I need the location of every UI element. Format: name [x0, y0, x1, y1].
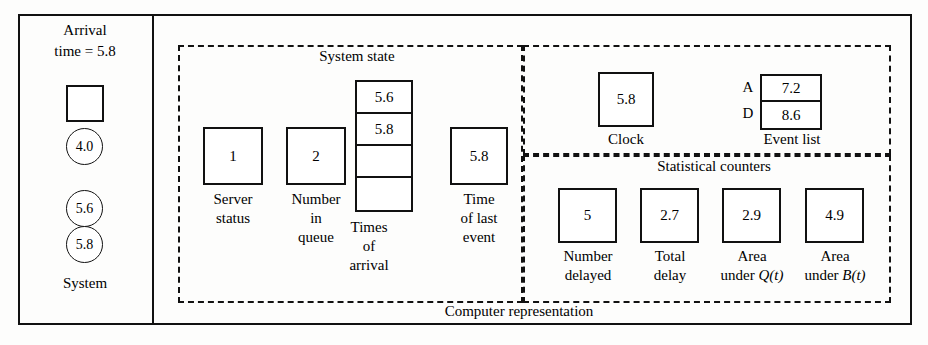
system-server-square: [66, 85, 104, 122]
number-delayed-caption-line2: delayed: [543, 266, 633, 285]
area-under-b-box: 4.9: [805, 188, 864, 243]
system-label: System: [18, 275, 152, 292]
computer-representation-title: Computer representation: [350, 303, 688, 320]
times-of-arrival-caption-line3: arrival: [324, 256, 414, 275]
server-status-caption-line1: Server: [188, 190, 278, 209]
area-under-q-caption-line2: under Q(t): [706, 266, 798, 285]
times-of-arrival-caption: Times of arrival: [324, 218, 414, 275]
time-of-last-event-caption-line3: event: [434, 228, 524, 247]
total-delay-caption-line1: Total: [625, 247, 715, 266]
system-state-title: System state: [268, 48, 446, 65]
simulation-snapshot-diagram: Arrival time = 5.8 4.0 5.6 5.8 System Sy…: [0, 0, 928, 345]
arrival-time-title: Arrival time = 5.8: [18, 20, 152, 62]
number-in-queue-caption-line1: Number: [271, 190, 361, 209]
panel-divider: [152, 14, 154, 325]
system-customer-circle-1: 5.6: [66, 190, 103, 227]
server-status-caption-line2: status: [188, 209, 278, 228]
event-list-key-1: D: [740, 105, 756, 122]
clock-box: 5.8: [598, 72, 654, 127]
time-of-last-event-caption: Time of last event: [434, 190, 524, 247]
statistical-counters-title: Statistical counters: [610, 158, 818, 175]
event-list-value-1: 8.6: [762, 102, 820, 128]
times-of-arrival-cell-0: 5.6: [357, 82, 411, 114]
number-delayed-box: 5: [558, 188, 617, 243]
clock-caption: Clock: [586, 130, 666, 149]
system-customer-circle-2: 5.8: [66, 226, 103, 263]
time-of-last-event-caption-line2: of last: [434, 209, 524, 228]
times-of-arrival-caption-line2: of: [324, 237, 414, 256]
area-under-b-caption: Area under B(t): [789, 247, 881, 285]
number-delayed-caption-line1: Number: [543, 247, 633, 266]
area-under-q-caption-line1: Area: [706, 247, 798, 266]
event-list-value-0: 7.2: [762, 76, 820, 102]
system-customer-circle-0: 4.0: [66, 128, 103, 165]
number-in-queue-box: 2: [286, 127, 346, 185]
area-under-q-caption: Area under Q(t): [706, 247, 798, 285]
server-status-box: 1: [203, 127, 263, 185]
times-of-arrival-caption-line1: Times: [324, 218, 414, 237]
times-of-arrival-stack: 5.6 5.8: [355, 80, 413, 212]
event-list-caption: Event list: [746, 130, 838, 149]
times-of-arrival-cell-1: 5.8: [357, 114, 411, 146]
total-delay-caption: Total delay: [625, 247, 715, 285]
total-delay-box: 2.7: [640, 188, 699, 243]
arrival-title-line2: time = 5.8: [18, 41, 152, 62]
area-under-b-caption-line2: under B(t): [789, 266, 881, 285]
times-of-arrival-cell-2: [357, 146, 411, 178]
time-of-last-event-box: 5.8: [450, 127, 508, 185]
server-status-caption: Server status: [188, 190, 278, 228]
area-under-b-caption-line1: Area: [789, 247, 881, 266]
number-delayed-caption: Number delayed: [543, 247, 633, 285]
time-of-last-event-caption-line1: Time: [434, 190, 524, 209]
arrival-title-line1: Arrival: [18, 20, 152, 41]
area-under-q-box: 2.9: [722, 188, 781, 243]
event-list-key-0: A: [740, 79, 756, 96]
event-list-box: 7.2 8.6: [760, 74, 822, 130]
times-of-arrival-cell-3: [357, 178, 411, 210]
total-delay-caption-line2: delay: [625, 266, 715, 285]
